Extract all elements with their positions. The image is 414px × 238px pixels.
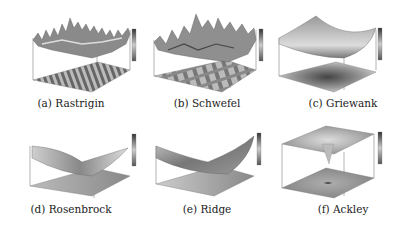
caption-schwefel: (b) Schwefel <box>138 97 276 109</box>
caption-rosenbrock: (d) Rosenbrock <box>2 203 140 215</box>
caption-ridge: (e) Ridge <box>138 203 276 215</box>
panel-rastrigin: (a) Rastrigin <box>2 0 140 118</box>
surface-plot-griewank <box>274 0 412 96</box>
panel-griewank: (c) Griewank <box>274 0 412 118</box>
surface-plot-ackley <box>274 118 412 214</box>
panel-schwefel: (b) Schwefel <box>138 0 276 118</box>
surface-plot-rosenbrock <box>2 118 140 214</box>
surface-plot-schwefel <box>138 0 276 96</box>
panel-ridge: (e) Ridge <box>138 118 276 236</box>
panel-ackley: (f) Ackley <box>274 118 412 236</box>
caption-ackley: (f) Ackley <box>274 203 412 215</box>
caption-griewank: (c) Griewank <box>274 97 412 109</box>
panel-rosenbrock: (d) Rosenbrock <box>2 118 140 236</box>
surface-plot-rastrigin <box>2 0 140 96</box>
surface-plot-ridge <box>138 118 276 214</box>
caption-rastrigin: (a) Rastrigin <box>2 97 140 109</box>
